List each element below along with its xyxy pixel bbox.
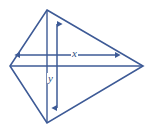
kite-diagram-figure: x y bbox=[0, 0, 151, 131]
y-dimension-label: y bbox=[47, 73, 54, 84]
x-dimension-label: x bbox=[71, 48, 78, 59]
kite-diagram-canvas bbox=[0, 0, 151, 131]
